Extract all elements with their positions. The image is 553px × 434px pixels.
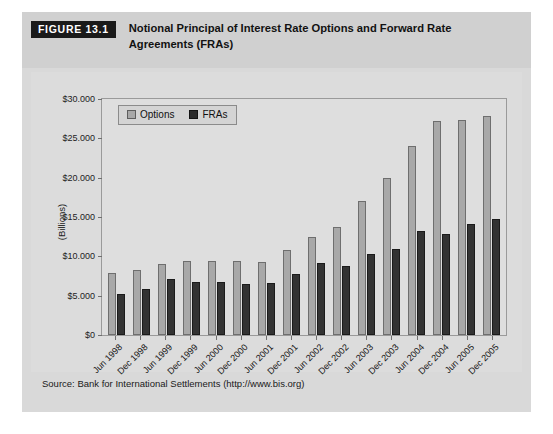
bar-options (133, 270, 141, 335)
bar-group (258, 99, 275, 335)
bar-group (483, 99, 500, 335)
bar-fras (467, 224, 475, 335)
bar-group (133, 99, 150, 335)
y-tick-label: $20.000 (62, 173, 95, 183)
bar-fras (342, 266, 350, 335)
bar-fras (417, 231, 425, 335)
bar-options (358, 201, 366, 335)
bar-options (233, 261, 241, 335)
bar-fras (192, 282, 200, 335)
bar-group (308, 99, 325, 335)
bar-group (408, 99, 425, 335)
bar-options (183, 261, 191, 335)
bar-options (458, 120, 466, 335)
bar-fras (117, 294, 125, 335)
bar-group (158, 99, 175, 335)
bar-fras (492, 219, 500, 335)
bar-fras (142, 289, 150, 335)
bar-options (383, 178, 391, 335)
figure-header: FIGURE 13.1 Notional Principal of Intere… (22, 12, 531, 68)
bar-fras (167, 279, 175, 335)
chart-plate: (Billions) Options FRAs $0$5.000$10.000$… (31, 72, 522, 372)
bar-group (358, 99, 375, 335)
bar-group (233, 99, 250, 335)
figure-card: FIGURE 13.1 Notional Principal of Intere… (22, 12, 531, 412)
figure-source: Source: Bank for International Settlemen… (42, 378, 304, 389)
bar-group (383, 99, 400, 335)
y-tick-label: $25.000 (62, 133, 95, 143)
options-swatch-icon (127, 110, 136, 119)
bar-fras (267, 283, 275, 335)
x-axis-labels: Jun 1998Dec 1998Jun 1999Dec 1999Jun 2000… (101, 340, 507, 374)
bar-fras (292, 274, 300, 335)
bar-group (108, 99, 125, 335)
bar-options (108, 273, 116, 335)
legend-entry-options: Options (127, 109, 174, 120)
bar-fras (392, 249, 400, 335)
y-tick-label: $10.000 (62, 251, 95, 261)
bar-group (283, 99, 300, 335)
legend-label-fras: FRAs (202, 109, 227, 120)
fras-swatch-icon (189, 110, 198, 119)
bar-options (258, 262, 266, 335)
bar-fras (367, 254, 375, 335)
bar-fras (317, 263, 325, 335)
bar-fras (217, 282, 225, 335)
bar-options (433, 121, 441, 335)
bar-options (333, 227, 341, 335)
y-tick-label: $0 (85, 330, 95, 340)
figure-title: Notional Principal of Interest Rate Opti… (129, 21, 489, 52)
bar-group (208, 99, 225, 335)
bar-options (308, 237, 316, 335)
legend-entry-fras: FRAs (189, 109, 227, 120)
plot-frame: Options FRAs $0$5.000$10.000$15.000$20.0… (101, 98, 507, 336)
bar-options (408, 146, 416, 335)
bar-group (333, 99, 350, 335)
chart-legend: Options FRAs (118, 105, 237, 125)
bar-options (483, 116, 491, 335)
bar-group (458, 99, 475, 335)
bar-options (158, 264, 166, 335)
bar-options (283, 250, 291, 335)
bar-options (208, 261, 216, 335)
bar-group (433, 99, 450, 335)
bar-group (183, 99, 200, 335)
x-label-slot: Dec 2005 (483, 340, 502, 374)
y-tick-label: $15.000 (62, 212, 95, 222)
y-axis-title: (Billions) (56, 204, 67, 240)
figure-number-badge: FIGURE 13.1 (31, 21, 116, 38)
bars-layer (102, 99, 506, 335)
y-tick-label: $5.000 (67, 291, 95, 301)
y-tick-label: $30.000 (62, 94, 95, 104)
bar-fras (442, 234, 450, 335)
legend-label-options: Options (140, 109, 174, 120)
plot-area: $0$5.000$10.000$15.000$20.000$25.000$30.… (102, 99, 506, 335)
bar-fras (242, 284, 250, 335)
